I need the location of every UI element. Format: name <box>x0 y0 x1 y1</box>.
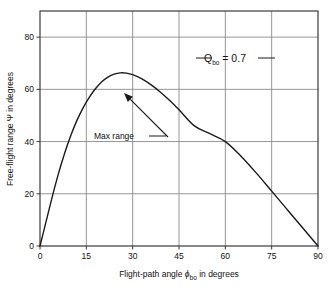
x-tick-label: 45 <box>174 251 184 261</box>
y-tick-label: 20 <box>25 189 35 199</box>
chart-container: 0153045607590 020406080 Flight-path angl… <box>0 0 336 290</box>
y-tick-label: 60 <box>25 84 35 94</box>
x-tick-label: 60 <box>221 251 231 261</box>
x-tick-label: 90 <box>313 251 323 261</box>
Q-symbol: Q <box>204 52 212 64</box>
max-range-label: Max range <box>94 131 134 141</box>
y-tick-label: 0 <box>29 241 34 251</box>
x-tick-label: 30 <box>128 251 138 261</box>
x-axis-title: Flight-path angle ϕbo in degrees <box>119 269 239 281</box>
free-flight-range-chart: 0153045607590 020406080 Flight-path angl… <box>0 0 336 290</box>
y-tick-label: 80 <box>25 32 35 42</box>
parameter-label-text: Qbo = 0.7 <box>204 52 246 66</box>
x-tick-label: 15 <box>82 251 92 261</box>
x-tick-label: 75 <box>267 251 277 261</box>
y-axis-title: Free-flight range Ψ in degrees <box>5 72 15 186</box>
y-tick-label: 40 <box>25 137 35 147</box>
x-tick-label: 0 <box>38 251 43 261</box>
psi-symbol: Ψ <box>5 114 15 121</box>
